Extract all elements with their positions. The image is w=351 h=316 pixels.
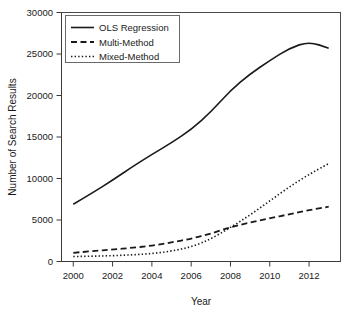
- series-line-multi-method: [73, 207, 328, 253]
- y-tick-label: 30000: [27, 7, 53, 18]
- x-tick-marks: [73, 262, 309, 267]
- data-series-group: [73, 43, 328, 256]
- y-tick-label: 10000: [27, 173, 53, 184]
- legend-label: Mixed-Method: [99, 51, 159, 62]
- legend-label: Multi-Method: [99, 37, 154, 48]
- y-tick-label: 20000: [27, 90, 53, 101]
- y-tick-label: 0: [48, 256, 53, 267]
- y-tick-label: 15000: [27, 131, 53, 142]
- x-tick-label: 2000: [63, 270, 84, 281]
- y-tick-label: 25000: [27, 48, 53, 59]
- legend-label: OLS Regression: [99, 22, 169, 33]
- x-tick-label: 2002: [102, 270, 123, 281]
- y-tick-label: 5000: [32, 214, 53, 225]
- x-tick-labels: 2000200220042006200820102012: [63, 270, 320, 281]
- y-axis: 050001000015000200002500030000: [27, 7, 62, 267]
- x-tick-label: 2008: [220, 270, 241, 281]
- x-tick-label: 2012: [298, 270, 319, 281]
- x-tick-label: 2004: [141, 270, 162, 281]
- series-line-mixed-method: [73, 164, 328, 257]
- series-line-ols-regression: [73, 43, 328, 204]
- y-tick-labels: 050001000015000200002500030000: [27, 7, 53, 267]
- x-axis: 2000200220042006200820102012: [62, 262, 341, 282]
- x-tick-label: 2010: [259, 270, 280, 281]
- chart-legend: OLS RegressionMulti-MethodMixed-Method: [66, 16, 180, 63]
- y-axis-title: Number of Search Results: [7, 78, 18, 195]
- line-chart: 050001000015000200002500030000 200020022…: [0, 0, 351, 316]
- chart-figure: 050001000015000200002500030000 200020022…: [0, 0, 351, 316]
- x-axis-title: Year: [191, 296, 212, 307]
- x-tick-label: 2006: [181, 270, 202, 281]
- y-tick-marks: [57, 13, 62, 262]
